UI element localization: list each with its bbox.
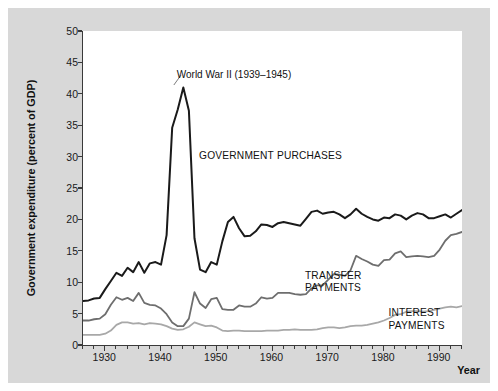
x-minor-tick-mark: [182, 346, 183, 349]
y-tick-mark: [78, 219, 83, 220]
x-minor-tick-mark: [138, 346, 139, 349]
series-line-government-purchases: [83, 88, 462, 302]
x-minor-tick-mark: [205, 346, 206, 349]
x-tick-label: 1950: [204, 351, 227, 363]
x-tick-mark: [327, 346, 328, 351]
y-tick-mark: [78, 282, 83, 283]
y-tick-label: 50: [66, 25, 78, 37]
x-minor-tick-mark: [316, 346, 317, 349]
x-minor-tick-mark: [361, 346, 362, 349]
x-minor-tick-mark: [428, 346, 429, 349]
figure-panel: Government expenditure (percent of GDP) …: [8, 8, 490, 383]
y-tick-mark: [78, 30, 83, 31]
x-minor-tick-mark: [238, 346, 239, 349]
x-tick-mark: [272, 346, 273, 351]
x-minor-tick-mark: [283, 346, 284, 349]
y-tick-label: 30: [66, 151, 78, 163]
y-tick-mark: [78, 187, 83, 188]
x-tick-label: 1990: [427, 351, 450, 363]
x-tick-label: 1940: [148, 351, 171, 363]
annotation-label: World War II (1939–1945): [177, 69, 292, 82]
y-tick-mark: [78, 125, 83, 126]
y-tick-label: 15: [66, 245, 78, 257]
y-tick-mark: [78, 313, 83, 314]
x-minor-tick-mark: [227, 346, 228, 349]
x-tick-mark: [216, 346, 217, 351]
x-minor-tick-mark: [450, 346, 451, 349]
y-tick-label: 45: [66, 56, 78, 68]
y-tick-label: 25: [66, 182, 78, 194]
x-minor-tick-mark: [171, 346, 172, 349]
x-minor-tick-mark: [260, 346, 261, 349]
y-tick-label: 10: [66, 276, 78, 288]
x-tick-mark: [439, 346, 440, 351]
y-axis-title: Government expenditure (percent of GDP): [18, 31, 44, 345]
x-tick-mark: [104, 346, 105, 351]
y-tick-label: 40: [66, 88, 78, 100]
x-minor-tick-mark: [127, 346, 128, 349]
x-minor-tick-mark: [461, 346, 462, 349]
x-tick-label: 1970: [316, 351, 339, 363]
x-minor-tick-mark: [115, 346, 116, 349]
x-tick-label: 1960: [260, 351, 283, 363]
x-tick-mark: [160, 346, 161, 351]
y-tick-mark: [78, 156, 83, 157]
x-minor-tick-mark: [82, 346, 83, 349]
annotation-label: GOVERNMENT PURCHASES: [199, 150, 342, 163]
x-minor-tick-mark: [305, 346, 306, 349]
x-minor-tick-mark: [338, 346, 339, 349]
x-minor-tick-mark: [149, 346, 150, 349]
x-minor-tick-mark: [405, 346, 406, 349]
y-tick-mark: [78, 62, 83, 63]
y-tick-mark: [78, 250, 83, 251]
y-tick-label: 20: [66, 213, 78, 225]
x-minor-tick-mark: [294, 346, 295, 349]
annotation-label: INTEREST PAYMENTS: [389, 307, 445, 332]
x-minor-tick-mark: [193, 346, 194, 349]
x-minor-tick-mark: [394, 346, 395, 349]
x-tick-label: 1930: [93, 351, 116, 363]
x-axis-title: Year: [457, 364, 480, 376]
annotation-label: TRANSFER PAYMENTS: [305, 270, 362, 295]
y-tick-label: 35: [66, 119, 78, 131]
y-axis-title-text: Government expenditure (percent of GDP): [25, 31, 38, 345]
y-tick-mark: [78, 93, 83, 94]
x-minor-tick-mark: [372, 346, 373, 349]
x-minor-tick-mark: [93, 346, 94, 349]
x-minor-tick-mark: [249, 346, 250, 349]
x-minor-tick-mark: [350, 346, 351, 349]
x-tick-label: 1980: [371, 351, 394, 363]
x-tick-mark: [383, 346, 384, 351]
x-minor-tick-mark: [416, 346, 417, 349]
y-axis-tick-labels: 05101520253035404550: [48, 31, 78, 345]
